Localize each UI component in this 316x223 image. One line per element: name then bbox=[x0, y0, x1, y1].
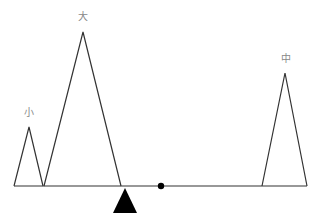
label-large: 大 bbox=[78, 12, 88, 22]
pivot-dot bbox=[158, 183, 164, 189]
triangle-small bbox=[14, 127, 43, 186]
label-small: 小 bbox=[24, 108, 34, 118]
label-medium: 中 bbox=[281, 54, 291, 64]
triangle-medium bbox=[262, 73, 307, 186]
fulcrum-icon bbox=[113, 188, 137, 213]
triangle-large bbox=[44, 32, 121, 186]
balance-diagram bbox=[0, 0, 316, 223]
